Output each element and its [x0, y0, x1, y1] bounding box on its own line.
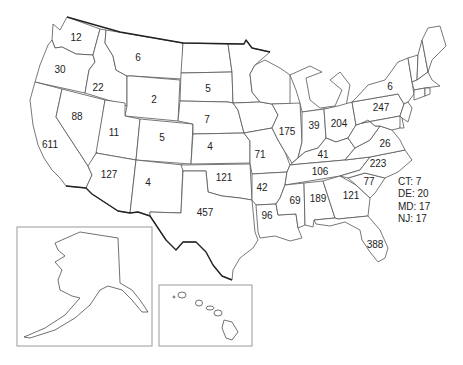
label-il: 175	[279, 126, 296, 137]
label-ne: 7	[204, 114, 210, 125]
legend-item-de: DE: 20	[398, 188, 430, 200]
alaska-inset-frame	[17, 227, 152, 346]
label-oh: 204	[331, 118, 348, 129]
label-sc: 77	[363, 176, 375, 187]
label-ga: 121	[343, 190, 360, 201]
label-va: 26	[379, 138, 391, 149]
state-nm[interactable]	[130, 160, 183, 216]
label-ca: 611	[42, 139, 58, 150]
label-mo: 71	[254, 149, 266, 160]
label-wy: 2	[151, 94, 157, 105]
hawaii-inset-frame	[159, 285, 252, 346]
label-fl: 388	[367, 239, 384, 250]
label-nm: 4	[145, 177, 151, 188]
state-ri[interactable]	[425, 88, 430, 96]
state-ks[interactable]	[191, 133, 250, 164]
label-nv: 88	[71, 111, 83, 122]
hawaii-inset[interactable]	[159, 285, 252, 346]
label-az: 127	[101, 169, 118, 180]
label-tn: 106	[312, 166, 329, 177]
label-la: 96	[261, 210, 273, 221]
us-map: 12 30 22 6 2 5 7 88 11 5 4 611 127 4 121…	[0, 0, 463, 365]
label-al: 189	[310, 193, 327, 204]
legend-item-md: MD: 17	[398, 201, 430, 213]
label-ok: 121	[216, 172, 233, 183]
alaska-inset[interactable]	[17, 227, 152, 346]
legend-item-ct: CT: 7	[398, 176, 430, 188]
label-ut: 11	[109, 127, 120, 138]
label-ar: 42	[256, 182, 268, 193]
label-ms: 69	[289, 195, 301, 206]
label-id: 22	[92, 82, 104, 93]
label-nc: 223	[370, 158, 387, 169]
label-co: 5	[159, 132, 165, 143]
label-or: 30	[54, 64, 66, 75]
label-ks: 4	[207, 141, 213, 152]
label-ky: 41	[317, 149, 329, 160]
label-wa: 12	[70, 32, 82, 43]
state-ct[interactable]	[414, 88, 425, 100]
label-ny: 6	[387, 81, 393, 92]
label-mt: 6	[135, 52, 141, 63]
label-pa: 247	[373, 102, 390, 113]
state-nd[interactable]	[181, 43, 232, 73]
legend-item-nj: NJ: 17	[398, 213, 430, 225]
state-wi[interactable]	[250, 60, 290, 104]
label-in: 39	[308, 120, 320, 131]
label-tx: 457	[197, 207, 214, 218]
state-az[interactable]	[86, 152, 136, 213]
label-sd: 5	[205, 83, 211, 94]
small-states-legend: CT: 7 DE: 20 MD: 17 NJ: 17	[398, 176, 430, 225]
